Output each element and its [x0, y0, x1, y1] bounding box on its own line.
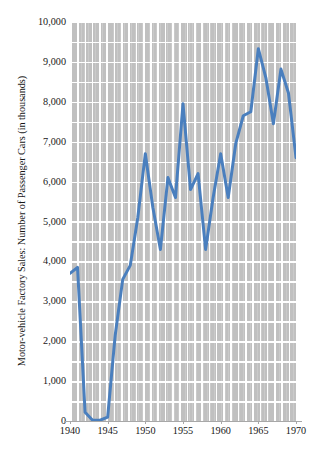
y-tick-label: 2,000	[22, 336, 66, 346]
x-tick-mark	[145, 421, 146, 424]
series-polyline	[70, 49, 296, 420]
y-tick-label: 6,000	[22, 177, 66, 187]
y-tick-label: 3,000	[22, 296, 66, 306]
y-tick-label: 10,000	[22, 17, 66, 27]
y-tick-label: 1,000	[22, 376, 66, 386]
y-tick-label: 4,000	[22, 256, 66, 266]
chart-figure: Motor-vehicle Factory Sales: Number of P…	[0, 0, 318, 454]
x-tick-mark	[258, 421, 259, 424]
x-tick-mark	[70, 421, 71, 424]
y-tick-label: 9,000	[22, 57, 66, 67]
x-tick-mark	[296, 421, 297, 424]
plot-area	[70, 22, 296, 421]
y-tick-label: 8,000	[22, 97, 66, 107]
y-tick-label: 7,000	[22, 137, 66, 147]
x-axis-tick-labels: 1940194519501955196019651970	[0, 424, 318, 446]
x-tick-label: 1970	[272, 424, 318, 438]
x-tick-mark	[183, 421, 184, 424]
x-tick-mark	[108, 421, 109, 424]
y-axis-tick-labels: 01,0002,0003,0004,0005,0006,0007,0008,00…	[22, 0, 66, 454]
y-tick-label: 5,000	[22, 217, 66, 227]
x-tick-mark	[221, 421, 222, 424]
series-line-chart	[70, 22, 296, 421]
